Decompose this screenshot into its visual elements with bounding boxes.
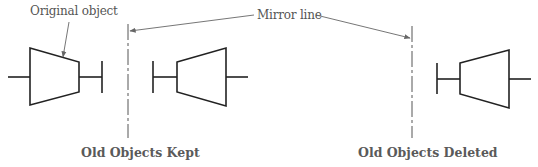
mirror-line-label: Mirror line — [257, 8, 322, 22]
leader-lines — [63, 15, 410, 57]
mirror-line-leader-right — [316, 15, 410, 38]
caption-old-objects-kept: Old Objects Kept — [81, 145, 200, 160]
original-object — [8, 48, 102, 105]
mirrored-object-kept — [153, 48, 248, 106]
original-object-leader — [63, 22, 69, 57]
original-object-label: Original object — [30, 4, 118, 18]
mirrored-object-deleted — [437, 50, 531, 108]
mirror-diagram: Original object Mirror line Old Objects … — [0, 0, 538, 167]
mirror-line-leader-left — [130, 15, 254, 31]
diagram-drawing — [0, 0, 538, 167]
caption-old-objects-deleted: Old Objects Deleted — [358, 145, 498, 160]
